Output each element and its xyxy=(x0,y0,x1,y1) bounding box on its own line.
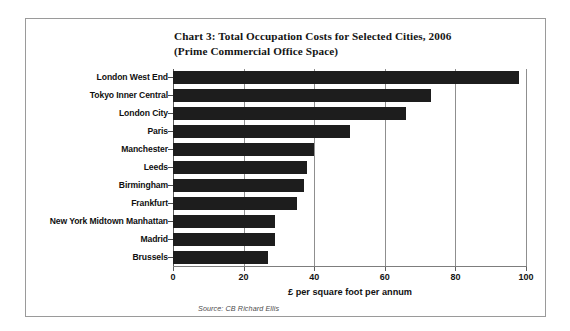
category-label-text: Leeds xyxy=(144,162,168,172)
bar-row[interactable] xyxy=(173,107,406,120)
bar[interactable] xyxy=(173,233,275,246)
value-tick-mark xyxy=(173,267,174,271)
gridline xyxy=(526,69,527,266)
source-note: Source: CB Richard Ellis xyxy=(198,304,279,313)
bar[interactable] xyxy=(173,71,519,84)
category-label: Frankfurt xyxy=(131,197,168,210)
bar[interactable] xyxy=(173,107,406,120)
category-label-text: London City xyxy=(119,108,168,118)
value-tick-label: 60 xyxy=(380,272,390,282)
category-label: Brussels xyxy=(132,251,168,264)
chart-figure-frame: Chart 3: Total Occupation Costs for Sele… xyxy=(25,18,546,317)
bar[interactable] xyxy=(173,161,307,174)
bar[interactable] xyxy=(173,251,268,264)
category-label-text: New York Midtown Manhattan xyxy=(50,216,168,226)
value-tick-label: 0 xyxy=(170,272,175,282)
category-label: London City xyxy=(119,107,168,120)
bar[interactable] xyxy=(173,143,314,156)
category-label-text: Brussels xyxy=(132,252,168,262)
category-label-text: Manchester xyxy=(121,144,168,154)
bar-row[interactable] xyxy=(173,251,268,264)
category-label: New York Midtown Manhattan xyxy=(50,215,168,228)
category-label-text: Tokyo Inner Central xyxy=(90,90,168,100)
category-label-text: Paris xyxy=(147,126,168,136)
category-label-text: London West End xyxy=(97,72,168,82)
category-label: Birmingham xyxy=(119,179,168,192)
value-tick-mark xyxy=(385,267,386,271)
bar-row[interactable] xyxy=(173,215,275,228)
category-label: Leeds xyxy=(144,161,168,174)
category-label: Madrid xyxy=(140,233,168,246)
value-tick-label: 80 xyxy=(450,272,460,282)
category-label-text: Birmingham xyxy=(119,180,168,190)
category-label: Manchester xyxy=(121,143,168,156)
bar-row[interactable] xyxy=(173,125,350,138)
bar-row[interactable] xyxy=(173,233,275,246)
bar-row[interactable] xyxy=(173,179,304,192)
value-tick-mark xyxy=(526,267,527,271)
bar[interactable] xyxy=(173,215,275,228)
chart-title-line-1: Chart 3: Total Occupation Costs for Sele… xyxy=(174,29,504,44)
category-axis-labels: London West EndTokyo Inner CentralLondon… xyxy=(26,69,168,266)
category-label: Paris xyxy=(147,125,168,138)
value-tick-mark xyxy=(244,267,245,271)
bar-row[interactable] xyxy=(173,197,297,210)
bar-row[interactable] xyxy=(173,71,519,84)
plot-area xyxy=(173,69,526,266)
chart-title-line-2: (Prime Commercial Office Space) xyxy=(174,44,504,59)
bar[interactable] xyxy=(173,197,297,210)
category-label-text: Madrid xyxy=(140,234,168,244)
chart-title: Chart 3: Total Occupation Costs for Sele… xyxy=(174,29,504,58)
bar-row[interactable] xyxy=(173,143,314,156)
value-tick-label: 20 xyxy=(239,272,249,282)
bar[interactable] xyxy=(173,89,431,102)
bar[interactable] xyxy=(173,179,304,192)
value-tick-mark xyxy=(455,267,456,271)
bar-row[interactable] xyxy=(173,89,431,102)
category-label: London West End xyxy=(97,71,168,84)
gridline xyxy=(455,69,456,266)
bar-row[interactable] xyxy=(173,161,307,174)
value-tick-mark xyxy=(314,267,315,271)
value-axis-ticks: 020406080100 xyxy=(173,267,527,287)
category-label: Tokyo Inner Central xyxy=(90,89,168,102)
category-label-text: Frankfurt xyxy=(131,198,168,208)
value-axis-title: £ per square foot per annum xyxy=(173,287,527,297)
value-tick-label: 40 xyxy=(309,272,319,282)
bar[interactable] xyxy=(173,125,350,138)
value-tick-label: 100 xyxy=(518,272,533,282)
